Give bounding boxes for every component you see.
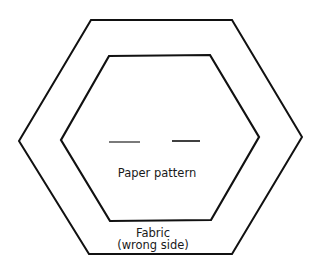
wrong-side-label: (wrong side) (117, 238, 189, 252)
hexagon-patchwork-diagram: Paper pattern Fabric (wrong side) (0, 0, 316, 274)
paper-pattern-inner-hexagon (61, 55, 259, 221)
paper-pattern-label: Paper pattern (118, 166, 196, 180)
